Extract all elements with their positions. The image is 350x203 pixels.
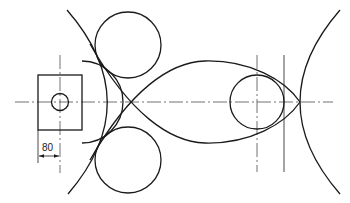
dimension-80: 80 xyxy=(38,130,59,163)
dimension-label: 80 xyxy=(42,142,54,153)
upper-connecting-arc-main xyxy=(90,61,300,160)
dimension-arrow-right xyxy=(54,154,59,157)
technical-drawing: 80 xyxy=(0,0,350,203)
dimension-arrow-left xyxy=(39,154,44,157)
